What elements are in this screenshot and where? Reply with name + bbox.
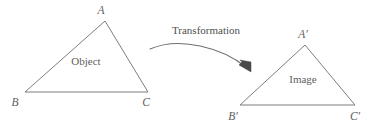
transformation-arrow-head — [239, 60, 251, 72]
vertex-label-a-prime: A′ — [297, 28, 308, 40]
transformation-arrow-curve — [150, 44, 246, 67]
transformation-diagram: A B C Object Transformation A′ B′ C′ Ima… — [0, 0, 380, 129]
object-triangle-group: A B C Object — [11, 4, 150, 108]
vertex-label-c-prime: C′ — [350, 110, 361, 122]
vertex-label-b-prime: B′ — [228, 110, 238, 122]
image-region-label: Image — [289, 73, 317, 85]
vertex-label-a: A — [96, 4, 105, 16]
transformation-arrow-label: Transformation — [172, 24, 241, 36]
vertex-label-c: C — [142, 96, 150, 108]
diagram-canvas: A B C Object Transformation A′ B′ C′ Ima… — [0, 0, 380, 129]
vertex-label-b: B — [11, 96, 18, 108]
object-region-label: Object — [71, 55, 100, 67]
image-triangle-group: A′ B′ C′ Image — [228, 28, 360, 122]
transformation-arrow-group: Transformation — [150, 24, 251, 72]
